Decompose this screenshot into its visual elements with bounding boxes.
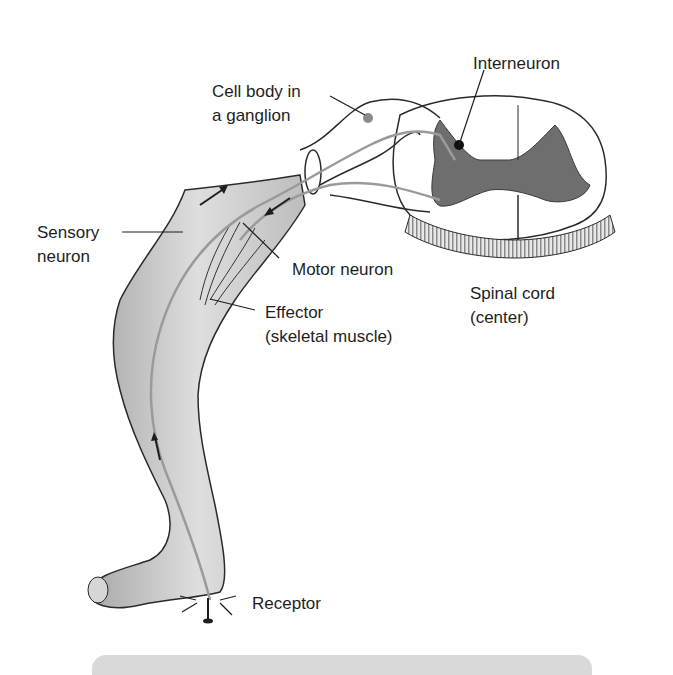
label-sensory-line2: neuron bbox=[37, 247, 90, 266]
receptor-illustration bbox=[180, 596, 236, 624]
label-sensory-line1: Sensory bbox=[37, 223, 100, 242]
leg-illustration bbox=[88, 175, 305, 608]
label-spinal-cord-line1: Spinal cord bbox=[470, 284, 555, 303]
label-interneuron: Interneuron bbox=[473, 54, 560, 73]
label-cell-body-line2: a ganglion bbox=[212, 106, 290, 125]
caption-bar bbox=[92, 655, 592, 675]
label-effector-line1: Effector bbox=[265, 303, 324, 322]
label-effector-line2: (skeletal muscle) bbox=[265, 327, 393, 346]
label-spinal-cord-line2: (center) bbox=[470, 308, 529, 327]
spinal-cord-cross-section bbox=[393, 96, 615, 258]
label-motor-neuron: Motor neuron bbox=[292, 260, 393, 279]
label-cell-body-line1: Cell body in bbox=[212, 82, 301, 101]
label-receptor: Receptor bbox=[252, 594, 321, 613]
